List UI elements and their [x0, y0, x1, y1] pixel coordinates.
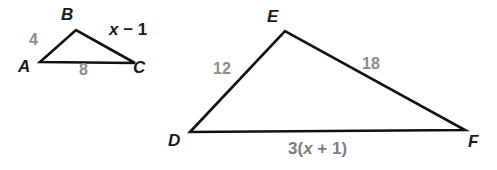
side-label-de: 12	[213, 61, 231, 77]
side-label-df-prefix: 3(	[288, 139, 303, 158]
side-label-bc: x − 1	[109, 21, 147, 38]
side-label-df-suffix: + 1)	[317, 139, 347, 158]
vertex-label-f: F	[468, 133, 478, 150]
side-label-bc-rest: − 1	[123, 20, 147, 39]
side-label-df: 3(x + 1)	[288, 140, 347, 157]
vertex-label-e: E	[267, 8, 278, 25]
side-label-ef: 18	[362, 56, 380, 72]
vertex-label-b: B	[61, 6, 73, 23]
vertex-label-c: C	[133, 59, 145, 76]
similar-triangles-figure: A B C 4 8 x − 1 D E F 12 18 3(x + 1)	[0, 0, 497, 170]
triangle-def-shape	[190, 31, 465, 132]
side-label-ac: 8	[79, 62, 88, 78]
vertex-label-d: D	[168, 132, 180, 149]
side-label-df-variable: x	[303, 139, 312, 158]
vertex-label-a: A	[18, 58, 30, 75]
triangles-canvas	[0, 0, 497, 170]
side-label-ab: 4	[29, 32, 38, 48]
